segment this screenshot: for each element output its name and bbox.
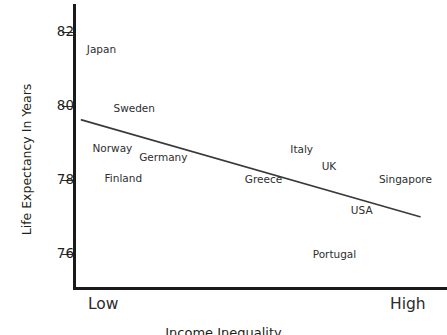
point-label-italy[interactable]: Italy — [290, 143, 313, 155]
y-tick-label: 80 — [48, 99, 74, 113]
trend-line — [0, 0, 447, 335]
plot-area: JapanSwedenNorwayGermanyFinlandGreeceIta… — [0, 0, 447, 335]
y-tick-label: 82 — [48, 25, 74, 39]
x-axis-label-low: Low — [88, 295, 119, 313]
income-inequality-life-expectancy-chart: Life Expectancy In Years 76788082 JapanS… — [0, 0, 447, 335]
y-axis-line — [73, 4, 76, 290]
point-label-uk[interactable]: UK — [322, 160, 337, 172]
point-label-japan[interactable]: Japan — [87, 43, 116, 55]
y-tick-label: 76 — [48, 247, 74, 261]
y-axis-title: Life Expectancy In Years — [19, 60, 34, 260]
x-axis-label-high: High — [390, 295, 426, 313]
point-label-singapore[interactable]: Singapore — [379, 173, 432, 185]
x-axis-title: Income Inequality — [0, 325, 447, 335]
point-label-greece[interactable]: Greece — [245, 173, 282, 185]
x-axis-line — [73, 287, 447, 290]
point-label-germany[interactable]: Germany — [139, 151, 187, 163]
point-label-portugal[interactable]: Portugal — [313, 248, 357, 260]
point-label-sweden[interactable]: Sweden — [113, 102, 155, 114]
point-label-usa[interactable]: USA — [351, 204, 373, 216]
point-label-norway[interactable]: Norway — [92, 142, 132, 154]
point-label-finland[interactable]: Finland — [105, 172, 143, 184]
y-tick-label: 78 — [48, 173, 74, 187]
